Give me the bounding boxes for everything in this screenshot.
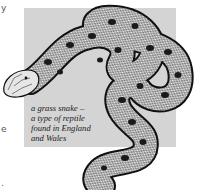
caption-line: and Wales [31, 133, 116, 143]
caption-line: found in England [31, 123, 116, 133]
caption-line: a grass snake – [31, 103, 116, 113]
caption-line: a type of reptile [31, 113, 116, 123]
grass-snake-illustration [0, 0, 200, 190]
figure-caption: a grass snake – a type of reptile found … [31, 103, 116, 143]
